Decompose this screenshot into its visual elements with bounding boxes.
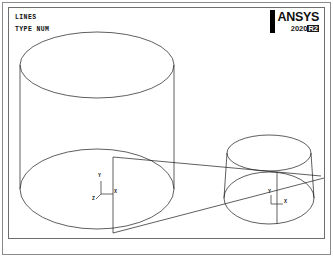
ansys-brand-text: ANSYS	[275, 11, 319, 24]
lower-tangent-line	[113, 178, 324, 233]
global-triad-label-y: Y	[98, 173, 101, 179]
plot-label-entity-type: LINES	[15, 12, 49, 24]
plot-header-labels: LINES TYPE NUM	[15, 12, 49, 37]
global-axis-triad	[96, 181, 113, 199]
global-triad-z-axis	[96, 194, 101, 199]
local-triad-label-x: X	[284, 199, 287, 205]
small-cylinder-top-ellipse	[227, 135, 311, 171]
upper-tangent-line	[113, 157, 321, 176]
local-triad-label-y: Y	[268, 189, 271, 195]
large-cylinder-top-ellipse	[20, 32, 174, 98]
global-triad-label-x: X	[114, 189, 117, 195]
plot-label-label-mode: TYPE NUM	[15, 24, 49, 36]
ansys-release-year: 2020	[291, 24, 308, 33]
ansys-release-badge: R2	[307, 25, 319, 33]
plot-frame[interactable]: LINES TYPE NUM ANSYS 2020R2	[8, 7, 325, 239]
ansys-logo: ANSYS 2020R2	[275, 10, 321, 33]
ansys-graphics-window: LINES TYPE NUM ANSYS 2020R2	[0, 0, 333, 257]
ansys-release-text: 2020R2	[275, 25, 319, 33]
geometry-canvas[interactable]	[9, 8, 325, 239]
large-cylinder-bottom-ellipse	[20, 149, 174, 229]
small-cylinder-bottom-ellipse	[224, 172, 314, 224]
global-triad-label-z: Z	[92, 196, 95, 202]
